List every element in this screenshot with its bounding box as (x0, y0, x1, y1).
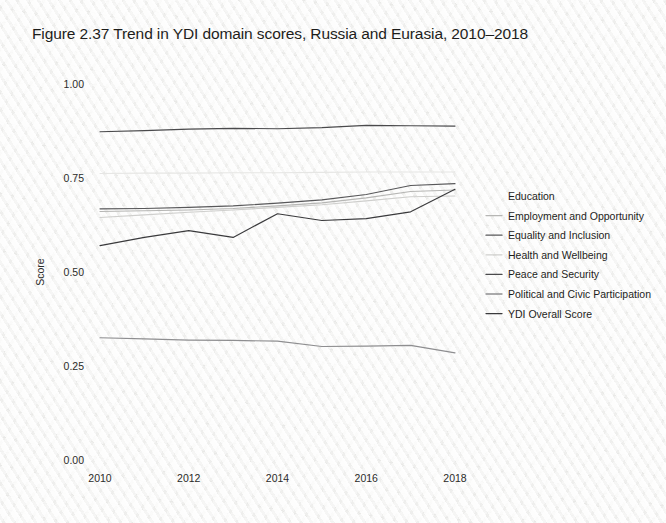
legend-item-label: YDI Overall Score (508, 308, 592, 320)
series-line (100, 338, 455, 353)
legend-item-label: Peace and Security (508, 268, 600, 280)
legend-item-label: Political and Civic Participation (508, 288, 651, 300)
series-line (100, 172, 455, 174)
y-axis-tick-label: 0.50 (64, 266, 85, 278)
line-chart: 1.000.750.500.250.00Score201020122014201… (0, 0, 666, 523)
x-axis-tick-label: 2014 (266, 472, 290, 484)
legend-item-label: Equality and Inclusion (508, 229, 610, 241)
x-axis-tick-label: 2010 (88, 472, 112, 484)
x-axis-tick-label: 2016 (355, 472, 379, 484)
x-axis-tick-label: 2018 (443, 472, 467, 484)
series-line (100, 184, 455, 209)
legend-item-label: Health and Wellbeing (508, 249, 608, 261)
y-axis-tick-label: 0.75 (64, 172, 85, 184)
y-axis-tick-label: 0.25 (64, 360, 85, 372)
y-axis-title: Score (34, 258, 46, 286)
x-axis-tick-label: 2012 (177, 472, 201, 484)
y-axis-tick-label: 1.00 (64, 78, 85, 90)
legend-item-label: Employment and Opportunity (508, 210, 645, 222)
legend-item-label: Education (508, 190, 555, 202)
y-axis-tick-label: 0.00 (64, 454, 85, 466)
series-line (100, 125, 455, 131)
